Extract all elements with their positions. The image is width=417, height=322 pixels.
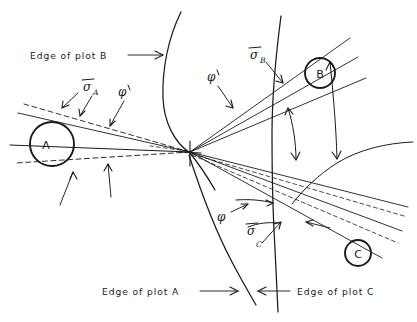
leader-phi-prime-a (110, 101, 124, 126)
sigma-a-symbol: σ (83, 80, 92, 94)
sigma-a-subscript: A (92, 88, 99, 97)
angle-arc-b (288, 108, 296, 160)
phi-prime-a-symbol: φ (118, 85, 127, 99)
angle-arc-c-arrow (266, 200, 273, 206)
ray-c-dashed-lower (192, 155, 398, 243)
caption-edge-of-plot-b: Edge of plot B (30, 50, 107, 61)
circle-label-a: A (42, 139, 50, 152)
leader-a-upper-inward (62, 93, 78, 108)
phi-prime-a-prime-mark (128, 85, 130, 90)
angle-label-sigma-b: σ B (249, 47, 266, 65)
angle-label-phi-prime-b: φ (207, 70, 219, 84)
leader-sigma-a (80, 96, 92, 116)
edge-of-plot-c-arc (272, 16, 281, 312)
circle-label-c: C (354, 248, 362, 261)
diagram-root: Edge of plot B Edge of plot A Edge of pl… (0, 0, 417, 322)
leader-phi-c (231, 204, 248, 212)
caption-edge-of-plot-c: Edge of plot C (297, 286, 374, 297)
edge-of-plot-b-arc (163, 12, 190, 153)
ray-c-lower (190, 152, 382, 258)
secondary-arc-right (292, 142, 413, 204)
edge-of-plot-a-arc (189, 155, 256, 305)
sigma-b-symbol: σ (250, 48, 259, 62)
angle-label-phi-prime-a: φ (118, 85, 130, 99)
sigma-c-symbol: σ (247, 224, 256, 238)
leader-phi-prime-b (218, 86, 233, 108)
circle-label-b: B (316, 68, 324, 81)
angle-arc-b-outer (330, 62, 337, 159)
target-circle-a (30, 122, 74, 166)
ray-a-lower-dashed (16, 152, 190, 163)
caption-edge-of-plot-a: Edge of plot A (102, 286, 179, 297)
ray-c-upper (190, 152, 408, 207)
ray-c-dashed-upper (192, 154, 404, 216)
leader-sigma-c (262, 222, 281, 243)
phi-c-symbol: φ (217, 210, 226, 224)
hand-drawn-diagram-canvas: Edge of plot B Edge of plot A Edge of pl… (0, 0, 417, 322)
angle-label-sigma-a: σ A (82, 79, 99, 97)
angle-label-sigma-c: σ C (246, 223, 262, 249)
phi-prime-b-symbol: φ (207, 70, 216, 84)
sigma-c-subscript: C (256, 240, 262, 249)
phi-prime-b-prime-mark (217, 70, 219, 75)
sigma-b-subscript: B (259, 56, 266, 65)
angle-label-phi-c: φ (217, 210, 226, 224)
